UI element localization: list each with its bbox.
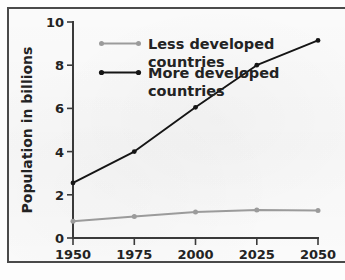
y-tick-label-10: 10 <box>46 15 64 30</box>
x-tick-labels: 1950 1975 2000 2025 2050 <box>55 247 336 262</box>
chart-page: 10 8 6 4 2 0 1950 1975 2000 2025 2050 Po… <box>0 0 345 280</box>
legend-marker-right-more-developed <box>136 70 141 75</box>
data-point-less-1975 <box>132 214 137 219</box>
chart-legend: Less developed countries More developed … <box>99 36 280 99</box>
data-point-less-2025 <box>254 207 259 212</box>
data-point-more-2000 <box>193 105 198 110</box>
y-tick-label-4: 4 <box>55 145 64 160</box>
y-axis-title: Population in billions <box>19 47 35 214</box>
y-tick-labels: 10 8 6 4 2 0 <box>46 15 64 246</box>
legend-marker-left-more-developed <box>99 70 104 75</box>
data-point-more-2050 <box>316 38 321 43</box>
y-tick-label-8: 8 <box>55 58 64 73</box>
x-tick-marks <box>73 238 318 245</box>
series-less-developed-countries <box>71 207 321 223</box>
data-point-less-2050 <box>316 208 321 213</box>
legend-marker-left-less-developed <box>99 41 104 46</box>
data-point-more-1975 <box>132 149 137 154</box>
data-point-more-1950 <box>71 181 76 186</box>
y-tick-label-0: 0 <box>55 231 64 246</box>
legend-label-less-developed-line1: Less developed <box>148 36 274 52</box>
legend-marker-right-less-developed <box>136 41 141 46</box>
legend-label-more-developed-line1: More developed <box>148 65 279 81</box>
x-tick-label-2050: 2050 <box>300 247 336 262</box>
x-tick-label-1950: 1950 <box>55 247 91 262</box>
y-tick-label-2: 2 <box>55 188 64 203</box>
y-tick-label-6: 6 <box>55 101 64 116</box>
data-point-less-2000 <box>193 210 198 215</box>
legend-entry-more-developed[interactable]: More developed countries <box>99 65 280 99</box>
data-point-less-1950 <box>71 219 76 224</box>
legend-label-more-developed-line2: countries <box>148 83 225 99</box>
x-tick-label-2000: 2000 <box>177 247 213 262</box>
x-tick-label-2025: 2025 <box>239 247 275 262</box>
line-chart: 10 8 6 4 2 0 1950 1975 2000 2025 2050 Po… <box>0 0 345 280</box>
x-tick-label-1975: 1975 <box>116 247 152 262</box>
